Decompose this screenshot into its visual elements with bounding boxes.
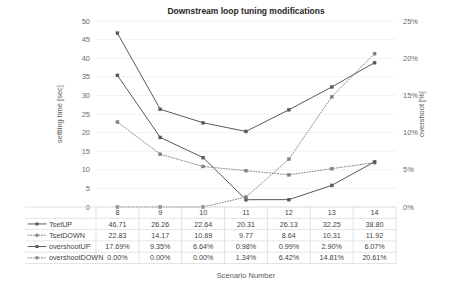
table-cell: 22.64 (194, 220, 212, 229)
table-cell: 26.13 (280, 220, 298, 229)
legend-marker (36, 222, 39, 225)
y-axis-tick-label: 30 (82, 91, 90, 100)
data-point-marker (116, 121, 119, 124)
x-axis-tick-label: 13 (328, 208, 336, 217)
table-cell: 0.00% (193, 253, 214, 262)
table-cell: 0.99% (279, 242, 300, 251)
x-axis-tick-label: 14 (371, 208, 379, 217)
legend-marker (36, 234, 39, 237)
y2-axis-tick-label: 5% (403, 165, 414, 174)
y-axis-tick-label: 40 (82, 54, 90, 63)
data-point-marker (330, 184, 333, 187)
data-point-marker (287, 108, 290, 111)
legend-key-TsetDOWN (28, 234, 46, 237)
table-cell: 46.71 (108, 220, 126, 229)
table-cell: 32.25 (323, 220, 341, 229)
series-TsetUP (116, 32, 376, 133)
x-axis-tick-label: 8 (115, 208, 119, 217)
table-cell: 6.64% (193, 242, 214, 251)
table-cell: 22.83 (108, 231, 126, 240)
x-axis-tick-label: 12 (285, 208, 293, 217)
y-axis-tick-label: 15 (82, 147, 90, 156)
y-axis-tick-label: 45 (82, 35, 90, 44)
data-point-marker (116, 32, 119, 35)
data-point-marker (116, 74, 119, 77)
table-cell: 6.42% (279, 253, 300, 262)
table-cell: 9.35% (150, 242, 171, 251)
table-cell: 14.81% (320, 253, 345, 262)
y2-axis-title: overshoot [%] (417, 91, 426, 137)
data-point-marker (159, 136, 162, 139)
table-cell: 20.31 (237, 220, 255, 229)
series-overshootUP (116, 74, 376, 201)
data-point-marker (330, 95, 333, 98)
data-point-marker (159, 153, 162, 156)
table-cell: 1.34% (236, 253, 257, 262)
chart-figure: Downstream loop tuning modifications0510… (0, 0, 450, 290)
legend-label-TsetDOWN: TsetDOWN (49, 231, 85, 240)
table-cell: 8.64 (282, 231, 296, 240)
y2-axis-tick-label: 0% (403, 203, 414, 212)
data-point-marker (245, 169, 248, 172)
table-cell: 11.92 (366, 231, 383, 240)
y2-axis-tick-label: 20% (403, 54, 418, 63)
y-axis-tick-label: 20 (82, 128, 90, 137)
y-axis-tick-label: 5 (86, 184, 90, 193)
y-axis-tick-label: 35 (82, 72, 90, 81)
legend-key-TsetUP (28, 222, 46, 225)
table-cell: 26.26 (151, 220, 169, 229)
legend-label-overshootUP: overshootUP (49, 242, 91, 251)
table-cell: 38.80 (366, 220, 384, 229)
table-cell: 0.00% (107, 253, 128, 262)
table-cell: 14.17 (151, 231, 169, 240)
table-cell: 17.69% (105, 242, 130, 251)
data-point-marker (202, 121, 205, 124)
legend-label-TsetUP: TsetUP (49, 220, 72, 229)
series-line (117, 75, 374, 199)
x-axis-tick-label: 11 (242, 208, 249, 217)
table-cell: 10.31 (323, 231, 341, 240)
y-axis-title: settling time [sec] (55, 85, 64, 143)
data-point-marker (202, 165, 205, 168)
y-axis-tick-label: 10 (82, 165, 90, 174)
data-point-marker (373, 52, 376, 55)
data-point-marker (159, 108, 162, 111)
data-point-marker (287, 173, 290, 176)
data-point-marker (287, 198, 290, 201)
y2-axis-tick-label: 25% (403, 17, 418, 26)
legend-marker (36, 245, 39, 248)
x-axis-tick-label: 10 (199, 208, 207, 217)
data-point-marker (330, 167, 333, 170)
x-axis-title: Scenario Number (217, 271, 276, 280)
data-point-marker (245, 196, 248, 199)
legend-label-overshootDOWN: overshootDOWN (49, 253, 103, 262)
y-axis-tick-label: 25 (82, 110, 90, 119)
series-line (117, 33, 374, 131)
data-point-marker (287, 158, 290, 161)
data-point-marker (202, 156, 205, 159)
table-cell: 6.07% (364, 242, 385, 251)
data-point-marker (373, 61, 376, 64)
table-cell: 0.00% (150, 253, 171, 262)
legend-marker (36, 256, 39, 259)
chart-title: Downstream loop tuning modifications (167, 6, 325, 16)
downstream-loop-tuning-chart: Downstream loop tuning modifications0510… (0, 0, 450, 290)
table-cell: 10.89 (194, 231, 212, 240)
legend-key-overshootUP (28, 245, 46, 248)
table-cell: 0.98% (236, 242, 257, 251)
y-axis-tick-label: 50 (82, 17, 90, 26)
data-point-marker (245, 130, 248, 133)
gridlines (96, 21, 396, 207)
legend-key-overshootDOWN (28, 256, 46, 259)
table-cell: 9.77 (239, 231, 253, 240)
data-point-marker (373, 160, 376, 163)
data-point-marker (330, 86, 333, 89)
table-cell: 20.61% (362, 253, 387, 262)
table-cell: 2.90% (322, 242, 343, 251)
x-axis-tick-label: 9 (158, 208, 162, 217)
